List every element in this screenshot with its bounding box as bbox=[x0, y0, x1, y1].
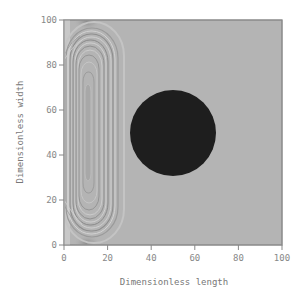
x-tick-label: 40 bbox=[146, 253, 157, 263]
y-tick-label: 60 bbox=[46, 105, 57, 115]
x-axis bbox=[64, 245, 282, 250]
x-tick-label: 100 bbox=[274, 253, 290, 263]
y-tick-label: 80 bbox=[46, 60, 57, 70]
y-axis-title: Dimensionless width bbox=[15, 81, 25, 184]
x-axis-title: Dimensionless length bbox=[120, 277, 228, 287]
x-tick-label: 60 bbox=[189, 253, 200, 263]
chart: 0 20 40 60 80 100 0 20 40 60 80 100 Dime… bbox=[0, 0, 304, 301]
x-tick-label: 0 bbox=[61, 253, 66, 263]
y-tick-label: 100 bbox=[41, 15, 57, 25]
x-tick-label: 80 bbox=[233, 253, 244, 263]
y-tick-label: 40 bbox=[46, 150, 57, 160]
x-tick-label: 20 bbox=[102, 253, 113, 263]
y-tick-label: 0 bbox=[52, 240, 57, 250]
obstacle-disk bbox=[130, 90, 216, 176]
y-tick-label: 20 bbox=[46, 195, 57, 205]
y-axis bbox=[59, 20, 64, 245]
